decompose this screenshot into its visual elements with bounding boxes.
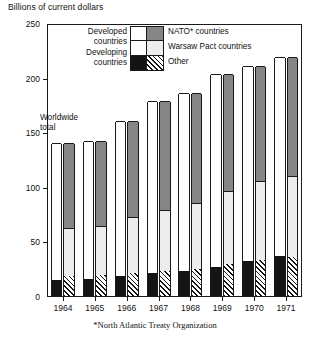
bar-alliance (127, 122, 139, 297)
bar-segment-warsaw (256, 181, 266, 260)
bar-development (178, 94, 190, 297)
legend-label-warsaw: Warsaw Pact countries (168, 40, 251, 55)
legend-developing-line1: Developing (86, 48, 127, 58)
legend-swatch-grid (130, 26, 164, 71)
x-axis-tick-mark (63, 297, 64, 301)
y-axis-tick-label: 50 (4, 237, 40, 247)
bar-segment-warsaw (128, 217, 138, 273)
bar-segment-other (192, 269, 202, 296)
bar-alliance (159, 102, 171, 297)
bar-segment-nato (64, 143, 74, 228)
x-axis-tick-label: 1968 (172, 303, 208, 313)
bar-segment-developing (211, 267, 221, 296)
x-axis-tick-label: 1969 (204, 303, 240, 313)
legend-swatch-developed-white (131, 27, 147, 41)
y-axis-tick-label: 150 (4, 128, 40, 138)
legend-label-developed: Developed countries (57, 26, 127, 47)
bar-segment-warsaw (224, 191, 234, 264)
bar-segment-developed (84, 141, 94, 279)
y-axis-tick-label: 0 (4, 292, 40, 302)
bar-alliance (287, 58, 299, 297)
legend-swatch-developed-white-2 (131, 41, 147, 55)
bar-segment-developing (84, 279, 94, 296)
bar-development (274, 58, 286, 297)
x-axis-tick-mark (222, 297, 223, 301)
bar-development (147, 102, 159, 297)
bar-segment-developed (243, 66, 253, 261)
bar-segment-developed (116, 121, 126, 276)
x-axis-tick-label: 1967 (141, 303, 177, 313)
x-axis-tick-mark (159, 297, 160, 301)
y-axis-tick-label: 250 (4, 19, 40, 29)
bar-segment-nato (256, 66, 266, 182)
bar-segment-developing (179, 271, 189, 296)
y-axis-tick-label: 200 (4, 74, 40, 84)
bar-segment-developing (148, 273, 158, 296)
bar-alliance (255, 67, 267, 297)
legend-developed-line1: Developed (88, 27, 127, 37)
bar-development (83, 142, 95, 297)
bar-segment-developing (116, 276, 126, 296)
bar-segment-nato (160, 101, 170, 210)
bar-segment-warsaw (96, 226, 106, 275)
annotation-line-2: total (40, 123, 78, 133)
bar-segment-other (96, 275, 106, 296)
bar-segment-nato (288, 57, 298, 176)
x-axis-tick-label: 1966 (109, 303, 145, 313)
footnote: *North Atlantic Treaty Organization (0, 320, 310, 330)
bar-development (51, 144, 63, 297)
bar-segment-nato (192, 93, 202, 203)
legend-right-labels: NATO* countries Warsaw Pact countries Ot… (168, 25, 251, 70)
bar-segment-warsaw (160, 210, 170, 271)
bar-alliance (63, 144, 75, 297)
bar-alliance (191, 94, 203, 297)
y-axis-title: Billions of current dollars (8, 2, 103, 12)
x-axis-tick-mark (286, 297, 287, 301)
bar-segment-other (288, 257, 298, 296)
legend-label-developing: Developing countries (57, 47, 127, 68)
bar-segment-developing (243, 261, 253, 296)
x-axis-tick-mark (254, 297, 255, 301)
bar-segment-nato (96, 141, 106, 226)
bar-segment-warsaw (64, 228, 74, 276)
chart-figure: Billions of current dollars 050100150200… (0, 0, 310, 338)
bar-segment-warsaw (288, 176, 298, 257)
bar-segment-other (256, 260, 266, 296)
legend-swatch-nato-dark-gray (147, 27, 163, 41)
bar-segment-developing (52, 280, 62, 296)
bar-development (242, 67, 254, 297)
bar-segment-warsaw (192, 203, 202, 269)
legend-swatch-developing-black (131, 56, 147, 70)
bar-segment-other (64, 276, 74, 296)
worldwide-total-annotation: Worldwide total (40, 113, 78, 133)
bar-segment-developed (275, 57, 285, 256)
bar-segment-developed (179, 93, 189, 271)
x-axis-tick-mark (127, 297, 128, 301)
x-axis-tick-mark (95, 297, 96, 301)
bar-segment-nato (128, 121, 138, 217)
bar-development (115, 122, 127, 297)
y-axis-tick-label: 100 (4, 183, 40, 193)
bar-segment-developed (52, 143, 62, 280)
bar-segment-nato (224, 74, 234, 191)
legend-swatch-warsaw-light-gray (147, 41, 163, 55)
bar-alliance (95, 142, 107, 297)
legend-label-nato: NATO* countries (168, 25, 251, 40)
annotation-line-1: Worldwide (40, 113, 78, 123)
bar-development (210, 75, 222, 297)
x-axis-tick-mark (190, 297, 191, 301)
bar-segment-other (160, 271, 170, 296)
legend-swatch-other-hatched (147, 56, 163, 70)
bar-segment-other (224, 264, 234, 296)
bar-segment-other (128, 273, 138, 296)
x-axis-tick-label: 1971 (268, 303, 304, 313)
bar-segment-developed (211, 74, 221, 266)
x-axis-tick-label: 1964 (45, 303, 81, 313)
bar-segment-developing (275, 256, 285, 296)
legend-left-labels: Developed countries Developing countries (57, 26, 127, 68)
legend-developed-line2: countries (88, 37, 127, 47)
x-axis-tick-label: 1965 (77, 303, 113, 313)
bar-segment-developed (148, 101, 158, 274)
bar-alliance (223, 75, 235, 297)
x-axis-tick-label: 1970 (236, 303, 272, 313)
